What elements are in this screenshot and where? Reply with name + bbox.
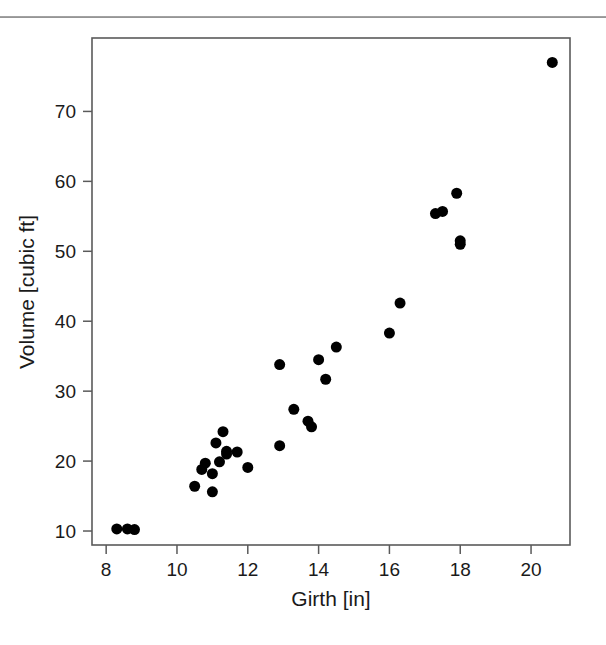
y-tick-label: 20 bbox=[55, 451, 76, 472]
x-tick-label: 16 bbox=[379, 559, 400, 580]
data-point bbox=[547, 57, 558, 68]
data-point bbox=[189, 481, 200, 492]
data-point bbox=[207, 468, 218, 479]
y-tick-label: 30 bbox=[55, 381, 76, 402]
plot-frame bbox=[92, 38, 570, 545]
data-point bbox=[395, 298, 406, 309]
y-tick-label: 60 bbox=[55, 171, 76, 192]
scatter-plot: 10203040506070 8101214161820 Girth [in] … bbox=[0, 0, 606, 645]
data-points-layer bbox=[111, 57, 558, 535]
data-point bbox=[200, 458, 211, 469]
x-axis: 8101214161820 bbox=[101, 545, 542, 580]
figure-container: 10203040506070 8101214161820 Girth [in] … bbox=[0, 0, 606, 645]
data-point bbox=[111, 523, 122, 534]
data-point bbox=[129, 524, 140, 535]
x-tick-label: 14 bbox=[308, 559, 330, 580]
data-point bbox=[218, 426, 229, 437]
data-point bbox=[455, 239, 466, 250]
x-tick-label: 8 bbox=[101, 559, 112, 580]
data-point bbox=[288, 404, 299, 415]
data-point bbox=[210, 437, 221, 448]
data-point bbox=[306, 421, 317, 432]
data-point bbox=[274, 440, 285, 451]
data-point bbox=[242, 462, 253, 473]
y-tick-label: 40 bbox=[55, 311, 76, 332]
data-point bbox=[232, 446, 243, 457]
y-axis-title: Volume [cubic ft] bbox=[15, 215, 38, 369]
data-point bbox=[207, 486, 218, 497]
data-point bbox=[313, 354, 324, 365]
x-tick-label: 10 bbox=[166, 559, 187, 580]
data-point bbox=[384, 328, 395, 339]
x-tick-label: 12 bbox=[237, 559, 258, 580]
data-point bbox=[320, 374, 331, 385]
x-axis-title: Girth [in] bbox=[291, 587, 370, 610]
y-tick-label: 70 bbox=[55, 101, 76, 122]
x-tick-label: 20 bbox=[520, 559, 541, 580]
x-tick-label: 18 bbox=[450, 559, 471, 580]
data-point bbox=[221, 446, 232, 457]
data-point bbox=[331, 342, 342, 353]
y-axis: 10203040506070 bbox=[55, 101, 92, 542]
data-point bbox=[274, 359, 285, 370]
data-point bbox=[451, 188, 462, 199]
y-tick-label: 10 bbox=[55, 521, 76, 542]
data-point bbox=[437, 206, 448, 217]
y-tick-label: 50 bbox=[55, 241, 76, 262]
